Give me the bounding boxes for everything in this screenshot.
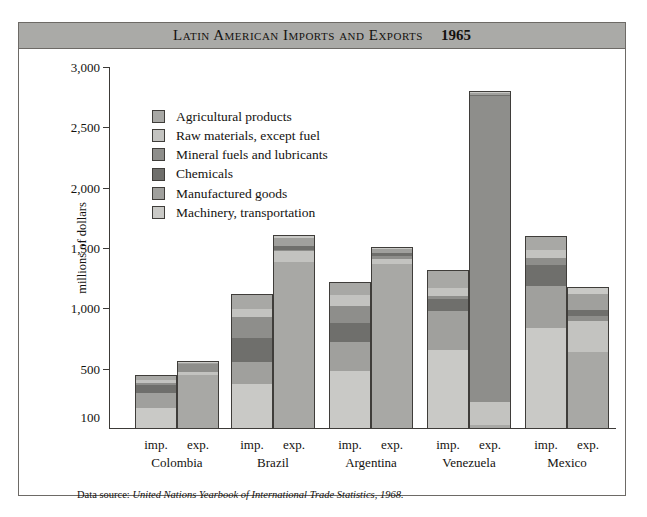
bar-segment <box>428 311 468 350</box>
bar-segment <box>470 425 510 428</box>
page-title: Latin American Imports and Exports <box>173 27 423 44</box>
data-source-prefix: Data source: <box>77 489 132 500</box>
bar-segment <box>330 323 370 342</box>
x-axis-sublabel: imp. <box>534 437 557 453</box>
bar-segment <box>274 238 314 247</box>
bar-segment <box>526 237 566 250</box>
y-axis-tick <box>103 67 110 68</box>
stacked-bar <box>371 247 413 429</box>
data-source-note: Data source: United Nations Yearbook of … <box>77 489 404 500</box>
bar-segment <box>136 393 176 408</box>
bar-segment <box>330 306 370 323</box>
y-axis-tick <box>103 248 110 249</box>
x-axis-sublabel: exp. <box>187 437 209 453</box>
x-axis-sublabel: exp. <box>283 437 305 453</box>
bar-segment <box>470 96 510 402</box>
x-axis-sublabel: imp. <box>436 437 459 453</box>
stacked-bar <box>177 361 219 429</box>
bar-segment <box>232 338 272 362</box>
plot-area: millions of dollars 3,0002,5002,0001,500… <box>109 67 599 429</box>
bar-segment <box>526 265 566 286</box>
y-axis-tick-label: 3,000 <box>71 61 100 74</box>
stacked-bar <box>273 235 315 429</box>
stacked-bar <box>525 236 567 429</box>
bar-segment <box>232 362 272 384</box>
bar-segment <box>526 328 566 428</box>
bar-segment <box>330 295 370 306</box>
x-axis-category-label: Brazil <box>257 455 289 471</box>
stacked-bar <box>135 375 177 429</box>
bar-segment <box>136 408 176 428</box>
bar-segment <box>568 321 608 351</box>
title-year: 1965 <box>441 27 471 44</box>
bar-segment <box>274 262 314 428</box>
bar-segment <box>330 371 370 428</box>
bar-segment <box>526 250 566 258</box>
bar-segment <box>568 352 608 428</box>
bar-segment <box>232 295 272 309</box>
x-axis-category-label: Argentina <box>345 455 397 471</box>
x-axis-category-label: Venezuela <box>442 455 495 471</box>
x-axis-category-label: Colombia <box>151 455 202 471</box>
y-axis-tick-label: 500 <box>81 362 101 375</box>
stacked-bar <box>231 294 273 429</box>
x-axis-sublabel: exp. <box>479 437 501 453</box>
stacked-bar <box>329 282 371 429</box>
bar-segment <box>428 288 468 296</box>
x-axis-sublabel: exp. <box>577 437 599 453</box>
bar-segment <box>330 283 370 295</box>
stacked-bar <box>567 287 609 429</box>
stacked-bar <box>469 91 511 429</box>
bar-segment <box>568 294 608 309</box>
stacked-bar <box>427 270 469 429</box>
bar-segment <box>372 264 412 428</box>
y-axis-tick <box>103 369 110 370</box>
y-axis-tick-label: 1,500 <box>71 242 100 255</box>
y-axis-tick <box>103 308 110 309</box>
x-axis-sublabel: imp. <box>240 437 263 453</box>
bar-segment <box>136 385 176 393</box>
y-axis-tick-label: 1,000 <box>71 302 100 315</box>
bar-segment <box>428 350 468 428</box>
y-axis-tick-label: 2,500 <box>71 121 100 134</box>
x-axis-category-label: Mexico <box>547 455 587 471</box>
bar-segment <box>330 342 370 371</box>
bar-segment <box>274 251 314 262</box>
figure-frame: Latin American Imports and Exports 1965 … <box>18 22 626 496</box>
y-axis-tick <box>103 127 110 128</box>
x-axis-sublabel: imp. <box>338 437 361 453</box>
bar-segment <box>232 309 272 317</box>
bar-segment <box>232 317 272 338</box>
x-axis-sublabel: exp. <box>381 437 403 453</box>
figure-title-band: Latin American Imports and Exports 1965 <box>19 23 625 49</box>
bar-segment <box>470 402 510 425</box>
bar-segment <box>428 299 468 310</box>
data-source-title: United Nations Yearbook of International… <box>132 489 403 500</box>
y-axis-tick <box>103 188 110 189</box>
bar-segment <box>428 271 468 288</box>
y-axis-tick-label: 2,000 <box>71 181 100 194</box>
x-axis-sublabel: imp. <box>144 437 167 453</box>
bar-segment <box>232 384 272 428</box>
chart-page: Latin American Imports and Exports 1965 … <box>0 0 647 517</box>
bar-segment <box>178 375 218 428</box>
y-axis-tick-label: 100 <box>81 410 101 423</box>
bar-segment <box>178 364 218 372</box>
bar-segment <box>526 286 566 328</box>
